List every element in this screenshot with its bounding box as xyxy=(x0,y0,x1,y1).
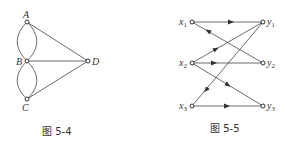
label-d: D xyxy=(91,56,100,67)
node-a xyxy=(25,20,29,24)
label-y2: y2 xyxy=(266,57,275,70)
label-b: B xyxy=(16,56,22,67)
edge-a-d xyxy=(27,22,88,61)
edge-b-c-right xyxy=(27,61,37,99)
label-y3: y3 xyxy=(266,100,275,113)
node-x3 xyxy=(190,104,194,108)
edge-c-d xyxy=(27,61,88,99)
figure-5-5: x1 x2 x3 y1 y2 y3 图 5-5 xyxy=(178,16,275,134)
edge-y1-x3 xyxy=(192,22,263,106)
node-x1 xyxy=(190,20,194,24)
label-x2: x2 xyxy=(178,57,187,70)
figure-5-4: A B C D 图 5-4 xyxy=(16,9,100,137)
label-c: C xyxy=(22,102,29,113)
label-x1: x1 xyxy=(178,16,187,29)
label-x3: x3 xyxy=(178,100,187,113)
label-a: A xyxy=(22,9,30,20)
node-y2 xyxy=(261,61,265,65)
edge-x2-y3 xyxy=(192,63,263,106)
diagram-canvas: A B C D 图 5-4 x1 x2 xyxy=(0,0,292,150)
label-y1: y1 xyxy=(266,16,275,29)
node-x2 xyxy=(190,61,194,65)
node-y1 xyxy=(261,20,265,24)
node-b xyxy=(25,59,29,63)
node-d xyxy=(86,59,90,63)
node-c xyxy=(25,97,29,101)
caption-fig-5-4: 图 5-4 xyxy=(42,126,72,137)
edge-a-b-right xyxy=(27,22,37,61)
caption-fig-5-5: 图 5-5 xyxy=(210,123,240,134)
node-y3 xyxy=(261,104,265,108)
